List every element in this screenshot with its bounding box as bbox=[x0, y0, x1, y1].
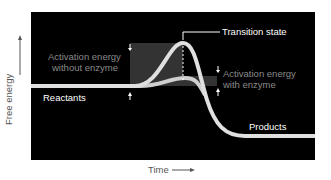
y-axis-label: Free energy bbox=[3, 74, 14, 125]
x-axis-arrow-icon bbox=[190, 168, 195, 172]
arrow-up-icon bbox=[216, 88, 220, 92]
arrow-down-icon bbox=[216, 70, 220, 73]
activation-without-label-2: without enzyme bbox=[52, 62, 118, 73]
reactants-label: Reactants bbox=[43, 92, 86, 103]
transition-state-label: Transition state bbox=[222, 26, 287, 37]
products-label: Products bbox=[249, 121, 287, 132]
arrow-up-icon bbox=[128, 92, 132, 96]
transition-leader bbox=[183, 32, 220, 40]
activation-with-label-2: with enzyme bbox=[223, 79, 276, 90]
activation-without-label-1: Activation energy bbox=[48, 51, 121, 62]
x-axis-label: Time bbox=[148, 164, 169, 175]
activation-with-label-1: Activation energy bbox=[223, 68, 296, 79]
y-axis-arrow-icon bbox=[18, 35, 22, 40]
